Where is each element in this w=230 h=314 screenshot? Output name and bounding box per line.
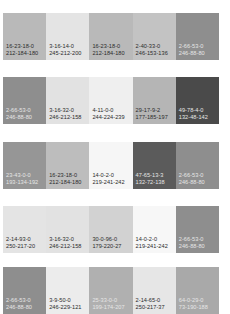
swatch-codes: 2-14-65-0 250-217-37 (136, 297, 165, 311)
swatch-row-3: 23-43-0-0 193-134-192 16-23-18-0 212-184… (3, 142, 219, 189)
swatch: 23-43-0-0 193-134-192 (3, 142, 46, 189)
swatch: 30-0-96-0 179-220-27 (89, 206, 132, 253)
cmyk-value: 16-23-18-0 (49, 172, 81, 179)
swatch-codes: 3-9-50-0 246-229-121 (49, 297, 81, 311)
swatch: 49-78-4-0 132-48-142 (176, 77, 219, 124)
swatch: 14-0-2-0 219-241-242 (133, 206, 176, 253)
swatch: 2-66-53-0 246-88-80 (176, 142, 219, 189)
swatch: 25-33-0-0 199-174-207 (89, 267, 132, 314)
swatch: 2-66-53-0 246-88-80 (176, 206, 219, 253)
cmyk-value: 3-16-14-0 (49, 43, 81, 50)
rgb-value: 132-48-142 (179, 114, 208, 121)
swatch-codes: 30-0-96-0 179-220-27 (92, 236, 121, 250)
swatch-codes: 3-16-32-0 246-212-158 (49, 107, 81, 121)
cmyk-value: 30-0-96-0 (92, 236, 121, 243)
rgb-value: 179-220-27 (92, 243, 121, 250)
swatch-codes: 2-66-53-0 246-88-80 (6, 297, 32, 311)
cmyk-value: 2-40-33-0 (136, 43, 168, 50)
rgb-value: 246-88-80 (6, 114, 32, 121)
swatch-codes: 25-33-0-0 199-174-207 (92, 297, 124, 311)
swatch: 3-16-14-0 245-212-200 (46, 13, 89, 60)
cmyk-value: 3-16-32-0 (49, 107, 81, 114)
swatch-codes: 4-11-0-0 244-224-239 (92, 107, 124, 121)
cmyk-value: 47-65-13-3 (136, 172, 165, 179)
rgb-value: 246-88-80 (6, 304, 32, 311)
swatch: 3-16-32-0 246-212-158 (46, 77, 89, 124)
swatch-codes: 49-78-4-0 132-48-142 (179, 107, 208, 121)
rgb-value: 212-184-180 (92, 50, 124, 57)
cmyk-value: 2-66-53-0 (6, 297, 32, 304)
swatch: 2-66-53-0 246-88-80 (3, 77, 46, 124)
swatch: 64-0-29-0 73-190-188 (176, 267, 219, 314)
swatch-codes: 2-66-53-0 246-88-80 (179, 172, 205, 186)
swatch: 16-23-18-0 212-184-180 (3, 13, 46, 60)
swatch: 16-23-18-0 212-184-180 (46, 142, 89, 189)
swatch-codes: 2-66-53-0 246-88-80 (6, 107, 32, 121)
swatch-codes: 2-40-33-0 246-153-136 (136, 43, 168, 57)
swatch-row-4: 2-14-93-0 250-217-20 3-16-32-0 246-212-1… (3, 206, 219, 253)
rgb-value: 219-241-242 (136, 243, 168, 250)
rgb-value: 246-212-158 (49, 114, 81, 121)
swatch: 47-65-13-3 132-72-138 (133, 142, 176, 189)
swatch: 16-23-18-0 212-184-180 (89, 13, 132, 60)
cmyk-value: 16-23-18-0 (92, 43, 124, 50)
swatch-codes: 3-16-32-0 246-212-158 (49, 236, 81, 250)
cmyk-value: 23-43-0-0 (6, 172, 38, 179)
swatch: 2-40-33-0 246-153-136 (133, 13, 176, 60)
swatch: 2-66-53-0 246-88-80 (176, 13, 219, 60)
rgb-value: 244-224-239 (92, 114, 124, 121)
cmyk-value: 2-66-53-0 (6, 107, 32, 114)
rgb-value: 219-241-242 (92, 179, 124, 186)
swatch: 2-14-65-0 250-217-37 (133, 267, 176, 314)
cmyk-value: 49-78-4-0 (179, 107, 208, 114)
swatch: 14-0-2-0 219-241-242 (89, 142, 132, 189)
cmyk-value: 64-0-29-0 (179, 297, 208, 304)
cmyk-value: 4-11-0-0 (92, 107, 124, 114)
swatch-row-2: 2-66-53-0 246-88-80 3-16-32-0 246-212-15… (3, 77, 219, 124)
swatch: 3-9-50-0 246-229-121 (46, 267, 89, 314)
swatch-codes: 16-23-18-0 212-184-180 (92, 43, 124, 57)
swatch-codes: 14-0-2-0 219-241-242 (136, 236, 168, 250)
cmyk-value: 2-66-53-0 (179, 43, 205, 50)
rgb-value: 73-190-188 (179, 304, 208, 311)
swatch: 3-16-32-0 246-212-158 (46, 206, 89, 253)
rgb-value: 132-72-138 (136, 179, 165, 186)
swatch-codes: 16-23-18-0 212-184-180 (6, 43, 38, 57)
rgb-value: 246-212-158 (49, 243, 81, 250)
swatch-codes: 2-66-53-0 246-88-80 (179, 236, 205, 250)
rgb-value: 177-185-197 (136, 114, 168, 121)
swatch-codes: 47-65-13-3 132-72-138 (136, 172, 165, 186)
swatch: 2-66-53-0 246-88-80 (3, 267, 46, 314)
cmyk-value: 2-14-65-0 (136, 297, 165, 304)
rgb-value: 212-184-180 (6, 50, 38, 57)
swatch: 29-17-9-2 177-185-197 (133, 77, 176, 124)
rgb-value: 246-88-80 (179, 179, 205, 186)
swatch-codes: 64-0-29-0 73-190-188 (179, 297, 208, 311)
swatch-codes: 16-23-18-0 212-184-180 (49, 172, 81, 186)
cmyk-value: 2-14-93-0 (6, 236, 35, 243)
rgb-value: 246-153-136 (136, 50, 168, 57)
swatch: 2-14-93-0 250-217-20 (3, 206, 46, 253)
cmyk-value: 2-66-53-0 (179, 236, 205, 243)
rgb-value: 193-134-192 (6, 179, 38, 186)
rgb-value: 250-217-20 (6, 243, 35, 250)
rgb-value: 212-184-180 (49, 179, 81, 186)
cmyk-value: 29-17-9-2 (136, 107, 168, 114)
cmyk-value: 25-33-0-0 (92, 297, 124, 304)
rgb-value: 199-174-207 (92, 304, 124, 311)
swatch: 4-11-0-0 244-224-239 (89, 77, 132, 124)
cmyk-value: 2-66-53-0 (179, 172, 205, 179)
rgb-value: 245-212-200 (49, 50, 81, 57)
swatch-row-1: 16-23-18-0 212-184-180 3-16-14-0 245-212… (3, 13, 219, 60)
cmyk-value: 14-0-2-0 (136, 236, 168, 243)
swatch-row-5: 2-66-53-0 246-88-80 3-9-50-0 246-229-121… (3, 267, 219, 314)
cmyk-value: 3-16-32-0 (49, 236, 81, 243)
cmyk-value: 3-9-50-0 (49, 297, 81, 304)
cmyk-value: 14-0-2-0 (92, 172, 124, 179)
cmyk-value: 16-23-18-0 (6, 43, 38, 50)
rgb-value: 246-88-80 (179, 50, 205, 57)
swatch-codes: 3-16-14-0 245-212-200 (49, 43, 81, 57)
rgb-value: 250-217-37 (136, 304, 165, 311)
rgb-value: 246-229-121 (49, 304, 81, 311)
swatch-codes: 2-14-93-0 250-217-20 (6, 236, 35, 250)
